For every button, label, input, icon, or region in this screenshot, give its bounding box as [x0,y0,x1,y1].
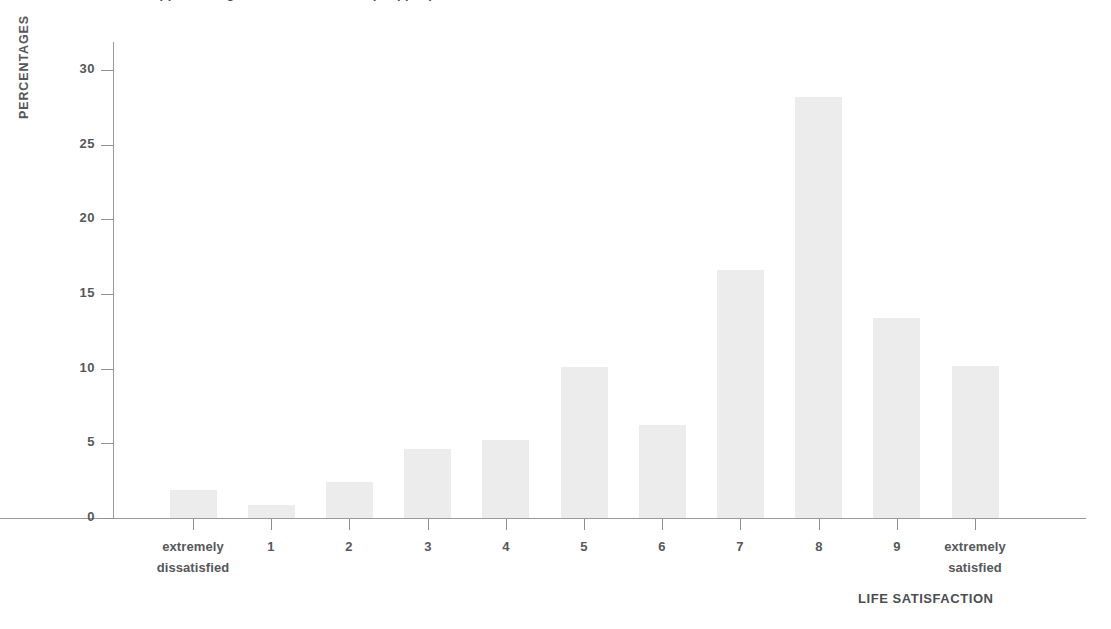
x-axis-tick [975,519,976,530]
x-axis-tick [819,519,820,530]
y-axis-tick [101,443,113,444]
y-axis-tick-label: 0 [55,509,95,524]
bar [404,449,451,518]
bar [795,97,842,518]
y-axis-tick [101,369,113,370]
figure-title-partial: Appendix Figure: Life Satisfaction (crop… [150,0,433,1]
life-satisfaction-bar-chart: Appendix Figure: Life Satisfaction (crop… [0,0,1111,629]
y-axis-tick-label: 15 [55,285,95,300]
y-axis-tick-label: 20 [55,210,95,225]
bar [873,318,920,518]
bar [639,425,686,518]
bar [952,366,999,518]
x-axis-tick [349,519,350,530]
y-axis-title: PERCENTAGES [17,7,31,127]
x-axis-tick [897,519,898,530]
cropped-title-strip: Appendix Figure: Life Satisfaction (crop… [0,0,1111,4]
bar [170,490,217,518]
y-axis-tick-label: 25 [55,136,95,151]
bar [326,482,373,518]
x-axis-title: LIFE SATISFACTION [858,591,994,606]
bar [482,440,529,518]
y-axis-tick [101,70,113,71]
bar [717,270,764,518]
y-axis-tick [101,518,113,519]
x-axis-tick [271,519,272,530]
y-axis-tick [101,219,113,220]
x-axis-line [0,518,1086,519]
x-axis-tick-label: extremelysatisfied [910,536,1040,578]
x-axis-tick [584,519,585,530]
bar [561,367,608,518]
y-axis-tick-label: 5 [55,434,95,449]
y-axis-tick-label: 10 [55,360,95,375]
y-axis-tick [101,294,113,295]
x-axis-tick [662,519,663,530]
bar [248,505,295,518]
y-axis-line [113,42,114,519]
x-axis-tick [740,519,741,530]
y-axis-tick [101,145,113,146]
x-axis-tick [506,519,507,530]
y-axis-tick-label: 30 [55,61,95,76]
x-axis-tick [428,519,429,530]
x-axis-tick [193,519,194,530]
